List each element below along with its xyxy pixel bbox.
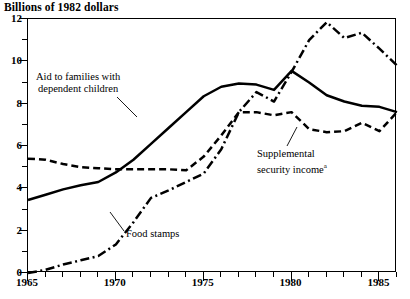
chart-figure: Billions of 1982 dollars 024681012196519… [0,0,410,299]
leader-lines [0,0,410,299]
